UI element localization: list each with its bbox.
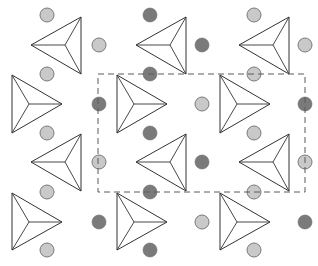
tetrahedron-left-pointing [239,17,289,74]
atom-dark [143,243,157,257]
atom-light [92,155,106,169]
tetrahedron-outline [136,134,186,191]
atom-light [40,67,54,81]
atom-dark [92,215,106,229]
atom-dark [92,97,106,111]
tetrahedron-outline [136,17,186,74]
tetrahedron-right-pointing [12,193,62,250]
tetrahedron-outline [31,17,81,74]
tetrahedron-outline [239,17,289,74]
tetrahedron-right-pointing [220,75,270,133]
atom-light [298,38,312,52]
tetrahedron-right-pointing [117,193,167,250]
tetrahedron-outline [220,193,270,250]
atom-light [195,97,209,111]
tetrahedron-left-pointing [31,17,81,74]
tetrahedron-outline [117,193,167,250]
tetrahedron-left-pointing [31,134,81,191]
atom-dark [195,155,209,169]
atom-light [40,126,54,140]
atom-light [40,8,54,22]
tetrahedron-right-pointing [12,75,62,133]
atom-light [247,126,261,140]
atom-light [247,243,261,257]
atom-dark [143,8,157,22]
tetrahedron-outline [239,134,289,191]
tetrahedron-left-pointing [136,17,186,74]
crystal-structure-diagram [0,0,318,266]
tetrahedron-right-pointing [220,193,270,250]
tetrahedron-left-pointing [239,134,289,191]
tetrahedron-left-pointing [136,134,186,191]
tetrahedron-outline [31,134,81,191]
atom-light [92,38,106,52]
atom-dark [143,126,157,140]
tetrahedron-outline [12,193,62,250]
atom-dark [298,215,312,229]
tetrahedron-right-pointing [117,75,167,133]
atom-dark [195,38,209,52]
atom-light [195,215,209,229]
atom-light [40,185,54,199]
atom-light [40,243,54,257]
atom-light [247,8,261,22]
